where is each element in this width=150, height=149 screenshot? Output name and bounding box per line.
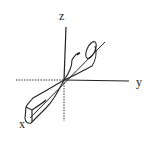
y-axis bbox=[64, 80, 129, 81]
3d-axes-diagram: z y x bbox=[0, 0, 150, 149]
z-axis-label: z bbox=[59, 9, 64, 23]
z-axis bbox=[64, 27, 66, 80]
upper-lobe bbox=[64, 40, 98, 80]
y-axis-label: y bbox=[136, 75, 142, 89]
x-axis-label: x bbox=[19, 117, 25, 131]
